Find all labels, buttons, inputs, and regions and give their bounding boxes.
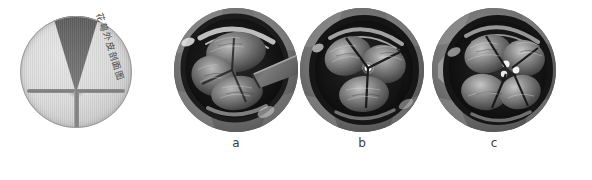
panel-label-a: a <box>174 136 298 150</box>
photo-a-graphic <box>174 8 298 132</box>
photo-disc-c <box>432 8 556 132</box>
schematic-wedge-shape <box>53 16 99 90</box>
panel-label-c: c <box>432 136 556 150</box>
schematic-vertical-stem <box>74 91 79 128</box>
endoscopic-photo-c <box>432 8 556 132</box>
photo-disc-a <box>174 8 298 132</box>
photo-c-graphic <box>432 8 556 132</box>
photo-disc-b <box>300 8 424 132</box>
panel-label-b: b <box>300 136 424 150</box>
figure-container: 花萼外皮剖面图 <box>0 0 592 180</box>
endoscopic-photo-b <box>300 8 424 132</box>
photo-b-graphic <box>300 8 424 132</box>
endoscopic-photo-a <box>174 8 298 132</box>
